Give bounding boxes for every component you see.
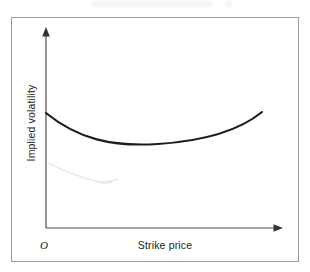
y-axis-label: Implied volatility — [26, 85, 37, 162]
x-axis-label: Strike price — [138, 240, 192, 251]
origin-label: O — [40, 240, 48, 251]
pencil-smudge-artifact — [48, 163, 118, 183]
x-axis-arrowhead — [274, 224, 284, 232]
plot-canvas — [0, 0, 310, 272]
volatility-smile-curve — [46, 112, 262, 145]
y-axis-arrowhead — [42, 27, 50, 37]
